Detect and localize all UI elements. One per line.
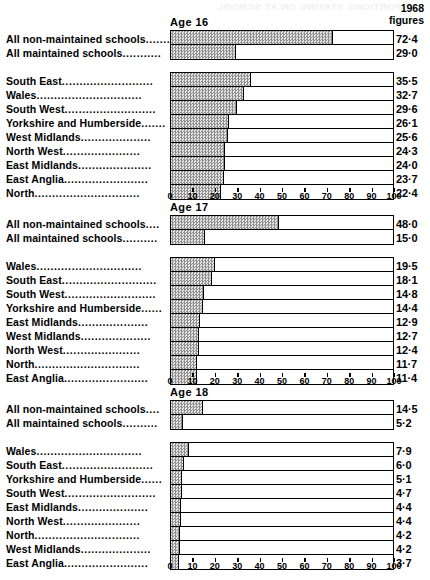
bar-row [171, 415, 393, 429]
bar-fill [171, 272, 212, 285]
bar-row [171, 300, 393, 314]
row-label: All maintained schools.......... [6, 231, 170, 245]
x-axis-tick-label: 100 [386, 561, 401, 571]
leader-dots: .................... [78, 501, 148, 513]
figures-year: 1968 [389, 3, 424, 15]
bar-block [170, 215, 394, 245]
row-value: 23·7 [396, 172, 430, 186]
row-label-text: Wales [6, 260, 36, 272]
bar-row [171, 45, 393, 59]
row-label-text: All maintained schools [6, 232, 123, 244]
row-label-text: North [6, 529, 35, 541]
bar-fill [171, 471, 182, 484]
row-label: North.............................. [6, 528, 170, 542]
bar-row [171, 143, 393, 157]
leader-dots: ..................... [78, 159, 152, 171]
bar-fill [171, 87, 244, 100]
bar-row [171, 356, 393, 370]
x-axis-tick-label: 90 [367, 561, 377, 571]
bar-fill [171, 300, 203, 313]
row-label: East Anglia........................ [6, 371, 170, 385]
bar-row [171, 73, 393, 87]
row-label-text: East Midlands [6, 159, 78, 171]
bar-fill [171, 443, 189, 456]
row-label: All non-maintained schools.... [6, 217, 170, 231]
row-label: West Midlands.................... [6, 130, 170, 144]
leader-dots: ...................... [63, 145, 140, 157]
leader-dots: .......................... [62, 459, 153, 471]
row-label-text: East Midlands [6, 316, 78, 328]
bar-row [171, 314, 393, 328]
row-value: 11·7 [396, 357, 430, 371]
bar-row [171, 286, 393, 300]
leader-dots: .......................... [65, 103, 156, 115]
bar-fill [171, 73, 251, 86]
row-label-text: North West [6, 145, 63, 157]
leader-dots: ........... [123, 47, 162, 59]
x-axis-tick-label: 60 [299, 561, 309, 571]
row-value: 14·8 [396, 287, 430, 301]
row-value: 7·9 [396, 444, 430, 458]
age-group-title: Age 16 [170, 16, 208, 28]
bar-row [171, 513, 393, 527]
bar-row [171, 258, 393, 272]
row-label: North.............................. [6, 186, 170, 200]
figures-word: figures [389, 15, 424, 27]
bar-row [171, 342, 393, 356]
x-axis-tick-label: 70 [322, 561, 332, 571]
bar-fill [171, 499, 181, 512]
row-value: 4·2 [396, 528, 430, 542]
row-label: All maintained schools........... [6, 46, 170, 60]
row-value: 12·7 [396, 329, 430, 343]
row-value: 29·0 [396, 46, 430, 60]
bar-fill [171, 171, 224, 184]
bar-row [171, 485, 393, 499]
leader-dots: .................... [81, 330, 151, 342]
bar-row [171, 527, 393, 541]
bar-fill [171, 216, 279, 229]
leader-dots: ...... [141, 302, 162, 314]
bar-row [171, 115, 393, 129]
row-value: 12·4 [396, 343, 430, 357]
bar-fill [171, 230, 205, 244]
row-label-text: Yorkshire and Humberside [6, 473, 141, 485]
row-label: East Midlands.................... [6, 500, 170, 514]
row-label-text: West Midlands [6, 543, 81, 555]
leader-dots: .... [146, 218, 160, 230]
leader-dots: .............................. [36, 260, 142, 272]
row-label-text: East Anglia [6, 173, 64, 185]
bar-fill [171, 157, 225, 170]
bar-block [170, 257, 394, 385]
x-axis-tick-label: 30 [232, 191, 242, 201]
x-axis-tick-label: 80 [344, 561, 354, 571]
x-axis-tick-label: 20 [210, 191, 220, 201]
row-label: Wales.............................. [6, 444, 170, 458]
row-value: 14·4 [396, 301, 430, 315]
bar-row [171, 443, 393, 457]
row-label-text: South West [6, 487, 65, 499]
x-axis-tick-label: 90 [367, 191, 377, 201]
leader-dots: ........................... [62, 274, 157, 286]
row-label: All maintained schools.......... [6, 416, 170, 430]
bar-row [171, 457, 393, 471]
leader-dots: .................... [78, 316, 148, 328]
leader-dots: .......................... [65, 487, 156, 499]
bar-block [170, 72, 394, 200]
row-label: South East........................... [6, 273, 170, 287]
x-axis-tick-label: 40 [255, 191, 265, 201]
x-axis: 0102030405060708090100 [170, 373, 394, 387]
bar-fill [171, 527, 180, 540]
leader-dots: ....... [141, 117, 166, 129]
row-label-text: All non-maintained schools [6, 403, 146, 415]
leader-dots: .............................. [35, 187, 141, 199]
leader-dots: .............................. [36, 89, 142, 101]
row-value: 14·5 [396, 402, 430, 416]
row-label-text: North West [6, 515, 63, 527]
bar-fill [171, 328, 199, 341]
row-label: Wales.............................. [6, 259, 170, 273]
row-value: 4·4 [396, 500, 430, 514]
leader-dots: ...... [141, 473, 162, 485]
x-axis-tick-label: 10 [187, 191, 197, 201]
row-label: South West.......................... [6, 486, 170, 500]
bar-row [171, 401, 393, 415]
